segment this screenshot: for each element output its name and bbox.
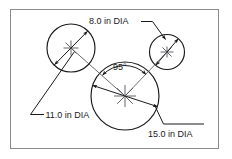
drawing-frame	[11, 10, 219, 149]
bottom-circle-dimension-label: 15.0 in DIA	[148, 129, 193, 139]
angle-label: 95°	[113, 62, 127, 72]
left-circle-dimension-label: 11.0 in DIA	[46, 110, 90, 120]
right-circle-dimension-label: 8.0 in DIA	[89, 16, 129, 26]
engineering-drawing: 11.0 in DIA 8.0 in DIA 15.0 in DIA	[0, 0, 232, 159]
drawing-canvas: 11.0 in DIA 8.0 in DIA 15.0 in DIA	[0, 0, 232, 159]
